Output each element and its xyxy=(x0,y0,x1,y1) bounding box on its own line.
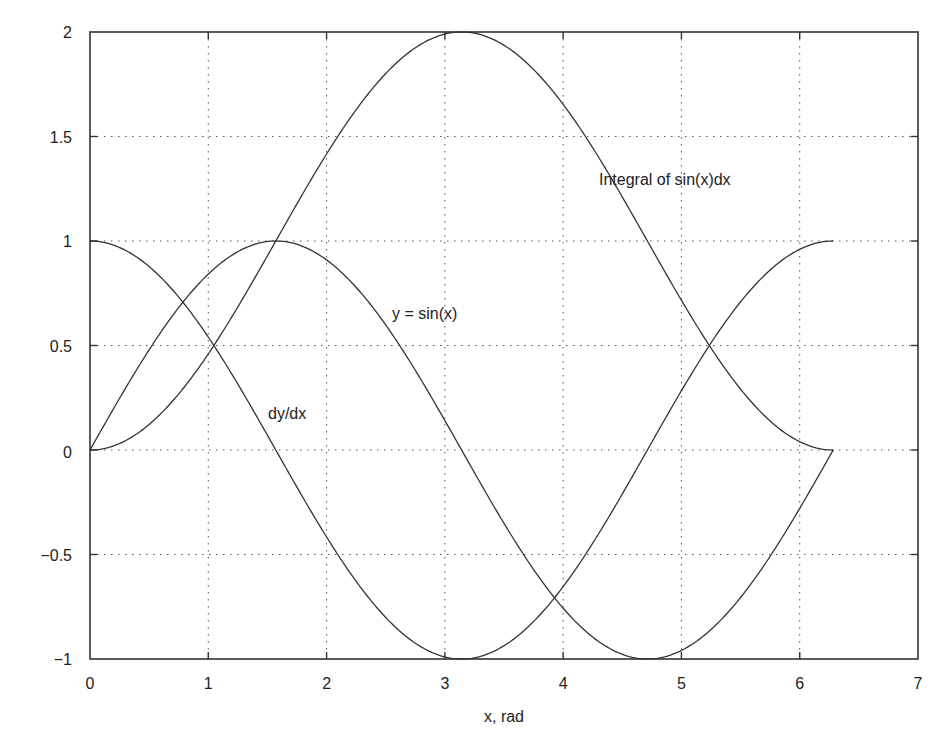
x-tick-label: 2 xyxy=(322,675,331,692)
y-tick-label: 2 xyxy=(63,24,72,41)
y-tick-label: 0 xyxy=(63,444,72,461)
y-tick-label: −0.5 xyxy=(40,547,72,564)
y-tick-label: 1 xyxy=(63,233,72,250)
x-axis-label: x, rad xyxy=(484,708,524,725)
x-tick-label: 7 xyxy=(914,675,923,692)
x-tick-label: 0 xyxy=(86,675,95,692)
chart: 2 1.5 1 0.5 0 −0.5 −1 0 1 2 3 4 5 6 7 x,… xyxy=(0,0,952,748)
x-tick-label: 1 xyxy=(204,675,213,692)
x-tick-label: 6 xyxy=(795,675,804,692)
y-tick-label: 0.5 xyxy=(50,338,72,355)
x-tick-label: 3 xyxy=(440,675,449,692)
annotation-integral: Integral of sin(x)dx xyxy=(599,171,731,188)
annotation-sin: y = sin(x) xyxy=(392,305,457,322)
x-tick-label: 4 xyxy=(559,675,568,692)
sin-curve xyxy=(90,241,833,659)
annotation-derivative: dy/dx xyxy=(268,405,306,422)
x-tick-label: 5 xyxy=(677,675,686,692)
y-tick-label: −1 xyxy=(54,651,72,668)
y-tick-label: 1.5 xyxy=(50,129,72,146)
